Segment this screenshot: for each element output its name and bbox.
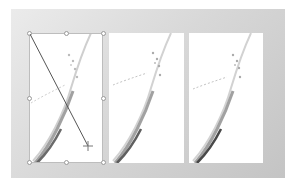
resize-handle-right[interactable] [101, 96, 106, 101]
resize-handle-bottom-right[interactable] [101, 160, 106, 165]
selection-border [29, 33, 103, 163]
resize-handle-bottom-left[interactable] [27, 160, 32, 165]
resize-handle-bottom[interactable] [64, 160, 69, 165]
grass-stem-image [109, 33, 184, 163]
image-panel-2[interactable] [109, 33, 184, 163]
resize-handle-left[interactable] [27, 96, 32, 101]
image-panel-3[interactable] [189, 33, 263, 163]
resize-handle-top-right[interactable] [101, 31, 106, 36]
grass-stem-image [189, 33, 263, 163]
resize-handle-top-left[interactable] [27, 31, 32, 36]
resize-handle-top[interactable] [64, 31, 69, 36]
